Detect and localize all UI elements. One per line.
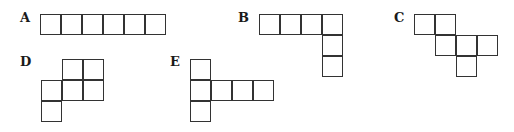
net-square xyxy=(301,14,322,35)
net-square xyxy=(322,14,343,35)
net-square xyxy=(41,101,62,122)
net-square xyxy=(280,14,301,35)
net-square xyxy=(414,14,435,35)
net-square xyxy=(322,35,343,56)
shape-label-d: D xyxy=(20,55,31,68)
net-square xyxy=(83,80,104,101)
net-square xyxy=(253,80,274,101)
net-square xyxy=(83,59,104,80)
shape-label-a: A xyxy=(20,11,30,24)
net-square xyxy=(456,35,477,56)
net-square xyxy=(259,14,280,35)
net-square xyxy=(61,14,82,35)
shape-label-e: E xyxy=(170,55,180,68)
net-square xyxy=(477,35,498,56)
net-square xyxy=(456,56,477,77)
net-square xyxy=(232,80,253,101)
net-square xyxy=(103,14,124,35)
net-square xyxy=(82,14,103,35)
net-square xyxy=(435,35,456,56)
net-square xyxy=(145,14,166,35)
net-square xyxy=(190,101,211,122)
shape-label-b: B xyxy=(238,11,249,24)
shape-label-c: C xyxy=(394,11,404,24)
net-square xyxy=(40,14,61,35)
net-square xyxy=(322,56,343,77)
net-square xyxy=(190,80,211,101)
net-square xyxy=(62,80,83,101)
net-square xyxy=(124,14,145,35)
net-square xyxy=(211,80,232,101)
net-square xyxy=(62,59,83,80)
net-square xyxy=(41,80,62,101)
net-square xyxy=(190,59,211,80)
net-square xyxy=(435,14,456,35)
